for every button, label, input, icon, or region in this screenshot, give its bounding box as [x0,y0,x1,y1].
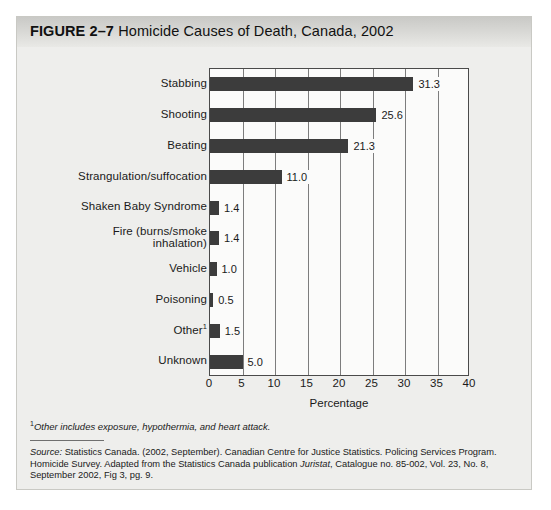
x-axis-tick-label: 0 [206,377,212,389]
category-label: Strangulation/suffocation [25,170,207,183]
category-label: Vehicle [25,262,207,275]
bar [210,355,243,369]
category-label: Shaken Baby Syndrome [25,200,207,213]
value-axis-ticks: 0510152025303540 [209,377,469,393]
bar-chart: StabbingShootingBeatingStrangulation/suf… [17,47,531,417]
category-label: Poisoning [25,293,207,306]
category-label: Shooting [25,108,207,121]
category-label-line: Fire (burns/smoke [25,225,207,238]
x-axis-tick-label: 30 [398,377,411,389]
bar [210,108,376,122]
source-label: Source: [30,447,62,457]
bar [210,262,217,276]
bar [210,139,348,153]
category-label-line: inhalation) [25,237,207,250]
bar-value-label: 1.5 [223,324,242,338]
category-label-line: Strangulation/suffocation [25,170,207,183]
bar-value-label: 25.6 [379,108,404,122]
footnote: 1Other includes exposure, hypothermia, a… [30,421,510,433]
bar [210,293,213,307]
figure-title-band: FIGURE 2–7 Homicide Causes of Death, Can… [17,17,531,47]
bar [210,170,282,184]
category-label-line: Stabbing [25,77,207,90]
x-axis-tick-label: 40 [463,377,476,389]
plot-area: 31.325.621.311.01.41.41.00.51.55.0 [209,68,469,376]
figure-container: FIGURE 2–7 Homicide Causes of Death, Can… [16,16,532,490]
bar-value-label: 31.3 [416,77,441,91]
source-publication-title: Juristat [300,459,330,469]
x-axis-tick-label: 20 [333,377,346,389]
bar-value-label: 5.0 [246,355,265,369]
category-label-line: Poisoning [25,293,207,306]
category-label-line: Shaken Baby Syndrome [25,200,207,213]
category-label-line: Unknown [25,354,207,367]
category-label-line: Other1 [25,324,207,337]
figure-number: FIGURE 2–7 [30,23,114,39]
figure-title-text: Homicide Causes of Death, Canada, 2002 [118,23,393,39]
category-label: Other1 [25,324,207,337]
footnote-ref-icon: 1 [203,322,207,331]
bar [210,201,219,215]
x-axis-tick-label: 35 [430,377,443,389]
bar-value-label: 1.4 [222,231,241,245]
category-label: Fire (burns/smokeinhalation) [25,225,207,250]
x-axis-tick-label: 15 [300,377,313,389]
category-label: Stabbing [25,77,207,90]
bar [210,77,413,91]
bar-value-label: 11.0 [285,170,310,184]
x-axis-title: Percentage [209,397,469,409]
category-axis-labels: StabbingShootingBeatingStrangulation/suf… [25,68,207,376]
bar [210,231,219,245]
page-title: FIGURE 2–7 Homicide Causes of Death, Can… [30,23,394,39]
category-label-line: Beating [25,139,207,152]
category-label-line: Shooting [25,108,207,121]
category-label: Beating [25,139,207,152]
x-axis-tick-label: 10 [268,377,281,389]
footnote-divider [30,440,104,441]
bar-value-label: 1.4 [222,201,241,215]
bar-value-label: 21.3 [351,139,376,153]
bar [210,324,220,338]
footnote-text: Other includes exposure, hypothermia, an… [34,421,271,432]
source-note: Source: Statistics Canada. (2002, Septem… [30,447,522,482]
x-axis-tick-label: 5 [238,377,244,389]
category-label-line: Vehicle [25,262,207,275]
bar-value-label: 0.5 [216,293,235,307]
category-label: Unknown [25,354,207,367]
gridline [405,69,406,375]
bar-value-label: 1.0 [220,262,239,276]
gridline [438,69,439,375]
x-axis-tick-label: 25 [365,377,378,389]
